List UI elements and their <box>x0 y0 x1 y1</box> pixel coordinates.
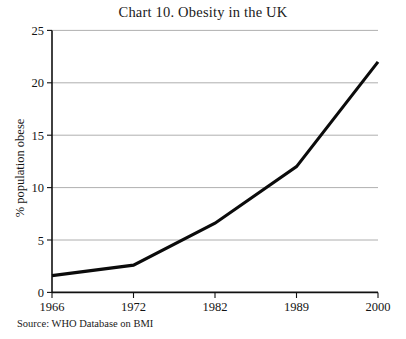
gridlines <box>52 30 378 240</box>
y-tick-label-20: 20 <box>32 76 45 90</box>
x-tick-labels: 1966 1972 1982 1989 2000 <box>40 300 391 314</box>
y-tick-labels: 25 20 15 10 5 0 <box>32 24 45 300</box>
chart-plot-area: 25 20 15 10 5 0 % population obese 1966 … <box>0 0 406 339</box>
x-tick-label-1966: 1966 <box>40 300 65 314</box>
chart-figure: Chart 10. Obesity in the UK 25 20 15 10 … <box>0 0 406 339</box>
y-tick-label-5: 5 <box>38 234 44 248</box>
x-tick-label-2000: 2000 <box>366 300 391 314</box>
data-line-obesity <box>52 62 378 276</box>
x-axis <box>52 292 378 298</box>
y-tick-label-15: 15 <box>32 129 45 143</box>
y-axis-title: % population obese <box>13 118 27 217</box>
y-axis <box>47 30 52 292</box>
y-tick-label-10: 10 <box>32 181 45 195</box>
x-tick-label-1972: 1972 <box>121 300 146 314</box>
x-tick-label-1989: 1989 <box>284 300 309 314</box>
y-tick-label-25: 25 <box>32 24 45 38</box>
x-tick-label-1982: 1982 <box>203 300 228 314</box>
source-note: Source: WHO Database on BMI <box>17 317 153 331</box>
y-tick-label-0: 0 <box>38 286 44 300</box>
y-axis-title-text: % population obese <box>13 118 27 217</box>
data-series-group <box>52 62 378 276</box>
